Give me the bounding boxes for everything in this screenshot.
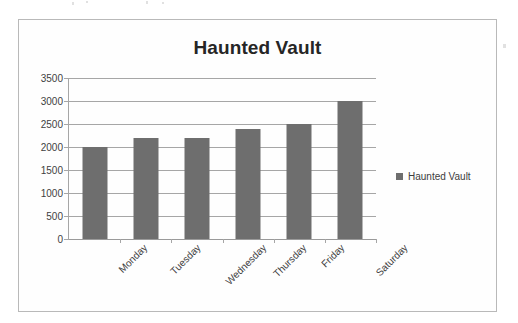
x-axis-tick-label: Tuesday xyxy=(168,242,203,277)
scan-speckle xyxy=(503,44,506,48)
x-axis-tick-label: Thursday xyxy=(272,242,309,279)
x-axis-tick-label: Friday xyxy=(319,242,346,269)
y-axis-tick-label: 1000 xyxy=(19,188,63,199)
bar-slot xyxy=(325,78,376,239)
bar xyxy=(287,124,312,239)
scan-speckle xyxy=(146,1,148,4)
chart-card: Haunted Vault 05001000150020002500300035… xyxy=(18,19,497,312)
bar-slot xyxy=(274,78,325,239)
y-axis-tick-label: 3000 xyxy=(19,96,63,107)
bar xyxy=(338,101,363,239)
bar xyxy=(236,129,261,239)
x-axis-tick-labels: MondayTuesdayWednesdayThursdayFridaySatu… xyxy=(69,242,376,304)
bar xyxy=(184,138,209,239)
x-axis-tick-label: Wednesday xyxy=(224,242,269,287)
scan-speckle xyxy=(162,2,164,4)
bar-slot xyxy=(171,78,222,239)
bar xyxy=(133,138,158,239)
chart-legend: Haunted Vault xyxy=(396,171,471,182)
bar-series xyxy=(69,78,376,239)
plot-area: 0500100015002000250030003500 xyxy=(69,78,376,239)
y-axis-tick xyxy=(64,239,69,240)
chart-title: Haunted Vault xyxy=(19,37,496,59)
y-axis-tick-label: 2500 xyxy=(19,119,63,130)
y-axis-tick-label: 0 xyxy=(19,234,63,245)
bar-slot xyxy=(69,78,120,239)
bar-slot xyxy=(120,78,171,239)
x-axis-tick-label: Monday xyxy=(116,242,149,275)
y-axis-tick-label: 3500 xyxy=(19,73,63,84)
x-axis-tick-label: Saturday xyxy=(373,242,409,278)
scan-speckle xyxy=(72,2,74,5)
y-axis-tick-label: 500 xyxy=(19,211,63,222)
y-axis-tick-label: 1500 xyxy=(19,165,63,176)
square-marker-icon xyxy=(396,173,403,180)
bar-slot xyxy=(223,78,274,239)
x-axis-tick xyxy=(376,239,377,243)
y-axis-tick-labels: 0500100015002000250030003500 xyxy=(17,78,63,239)
y-axis-tick-label: 2000 xyxy=(19,142,63,153)
bar xyxy=(82,147,107,239)
legend-label: Haunted Vault xyxy=(408,171,471,182)
scan-speckle xyxy=(86,1,88,3)
